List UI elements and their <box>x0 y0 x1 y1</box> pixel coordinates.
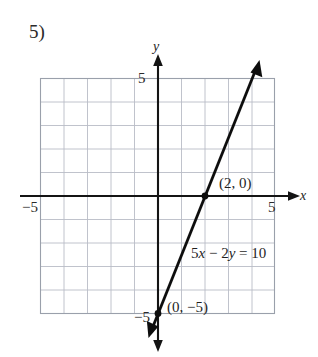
equation-equals: = <box>239 245 247 261</box>
equation-var-x: x <box>199 245 206 261</box>
x-axis-label: x <box>300 189 306 203</box>
y-axis-label: y <box>153 40 159 54</box>
x-axis <box>20 191 300 201</box>
tick-label-y-positive-5: 5 <box>138 71 146 86</box>
tick-label-x-negative-5: −5 <box>22 200 38 215</box>
point-label-x-intercept: (2, 0) <box>219 176 252 191</box>
equation-coef-x: 5 <box>191 245 199 261</box>
tick-label-y-negative-5: −5 <box>134 310 150 325</box>
equation-label: 5x − 2y = 10 <box>191 246 266 261</box>
equation-var-y: y <box>229 245 236 261</box>
graph-figure: 5) y x 5 −5 −5 5 (2, 0) (0, −5) 5x − 2y … <box>0 0 318 357</box>
tick-label-x-positive-5: 5 <box>268 200 276 215</box>
point-x-intercept <box>202 193 209 200</box>
point-y-intercept <box>155 310 162 317</box>
equation-rhs: 10 <box>251 245 266 261</box>
problem-number: 5) <box>29 22 45 41</box>
equation-operator: − <box>209 245 217 261</box>
point-label-y-intercept: (0, −5) <box>167 300 208 315</box>
equation-coef-y: 2 <box>221 245 229 261</box>
